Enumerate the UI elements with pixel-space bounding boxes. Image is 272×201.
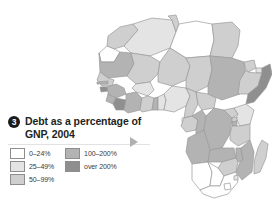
legend-swatch-over-200 <box>65 161 80 172</box>
legend-key-groups: 0–24% 25–49% 50–99% 100–200% <box>6 148 152 185</box>
legend-label: 0–24% <box>29 150 50 157</box>
legend-swatch-25-49 <box>10 161 25 172</box>
country-lesotho[interactable] <box>224 183 231 190</box>
country-madagascar[interactable] <box>254 140 268 174</box>
legend-label: 25–49% <box>29 163 54 170</box>
legend-item[interactable]: over 200% <box>65 161 117 172</box>
country-mali[interactable] <box>127 53 160 84</box>
legend-label: over 200% <box>84 163 117 170</box>
legend-title: Debt as a percentage of GNP, 2004 <box>25 115 143 140</box>
figure-number-badge: 3 <box>8 116 20 128</box>
figure-container: 3 Debt as a percentage of GNP, 2004 0–24… <box>0 0 272 201</box>
legend-column-right: 100–200% over 200% <box>65 148 117 185</box>
legend-divider <box>8 144 150 145</box>
country-swaziland[interactable] <box>234 175 238 180</box>
country-burundi[interactable] <box>232 121 237 126</box>
map-legend: 3 Debt as a percentage of GNP, 2004 0–24… <box>6 115 152 185</box>
legend-label: 50–99% <box>29 176 54 183</box>
country-ivory-coast[interactable] <box>124 92 142 113</box>
legend-swatch-50-99 <box>10 174 25 185</box>
legend-item[interactable]: 25–49% <box>10 161 54 172</box>
country-djibouti[interactable] <box>256 68 262 73</box>
legend-swatch-0-24 <box>10 148 25 159</box>
play-triangle-icon[interactable] <box>130 137 138 147</box>
country-namibia[interactable] <box>192 162 212 190</box>
legend-swatch-100-200 <box>65 148 80 159</box>
legend-item[interactable]: 0–24% <box>10 148 54 159</box>
legend-label: 100–200% <box>84 150 117 157</box>
country-guinea-bissau[interactable] <box>100 87 108 92</box>
legend-column-left: 0–24% 25–49% 50–99% <box>10 148 54 185</box>
legend-item[interactable]: 100–200% <box>65 148 117 159</box>
legend-item[interactable]: 50–99% <box>10 174 54 185</box>
country-egypt[interactable] <box>210 22 240 58</box>
